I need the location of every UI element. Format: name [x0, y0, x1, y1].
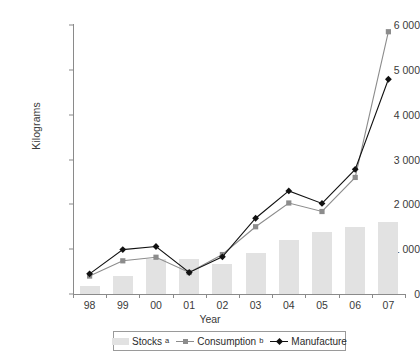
chart-legend: Stocksa Consumptionb Manufacture — [113, 331, 346, 351]
x-tick-mark — [73, 294, 74, 298]
legend-label-manufacture: Manufacture — [291, 336, 347, 347]
data-point-marker — [386, 29, 391, 34]
data-point-marker — [353, 175, 358, 180]
data-point-marker — [253, 224, 258, 229]
legend-item-manufacture: Manufacture — [270, 336, 347, 347]
legend-item-consumption: Consumptionb — [176, 336, 263, 347]
x-tick-label: 07 — [368, 299, 408, 311]
legend-swatch-stocks-icon — [112, 338, 129, 345]
line-series-layer — [73, 25, 405, 294]
legend-label-stocks: Stocks — [132, 336, 162, 347]
x-tick-mark — [405, 294, 406, 298]
line-path — [90, 79, 389, 274]
data-point-marker — [153, 255, 158, 260]
data-point-marker — [286, 200, 291, 205]
data-point-marker — [385, 76, 392, 83]
legend-swatch-manufacture-icon — [270, 337, 288, 345]
legend-label-consumption: Consumption — [197, 336, 256, 347]
x-tick-mark — [173, 294, 174, 298]
y-axis-title: Kilograms — [30, 76, 42, 176]
x-tick-mark — [206, 294, 207, 298]
x-tick-mark — [272, 294, 273, 298]
x-tick-mark — [239, 294, 240, 298]
x-tick-mark — [339, 294, 340, 298]
x-tick-mark — [106, 294, 107, 298]
line-path — [90, 32, 389, 276]
data-point-marker — [319, 209, 324, 214]
x-tick-mark — [139, 294, 140, 298]
data-point-marker — [120, 258, 125, 263]
legend-item-stocks: Stocksa — [112, 336, 169, 347]
x-axis-title: Year — [0, 313, 420, 325]
x-tick-mark — [305, 294, 306, 298]
chart-container: Kilograms Year 01 0002 0003 0004 0005 00… — [0, 0, 420, 353]
legend-swatch-consumption-icon — [176, 337, 194, 345]
plot-area — [73, 25, 405, 294]
x-tick-mark — [372, 294, 373, 298]
